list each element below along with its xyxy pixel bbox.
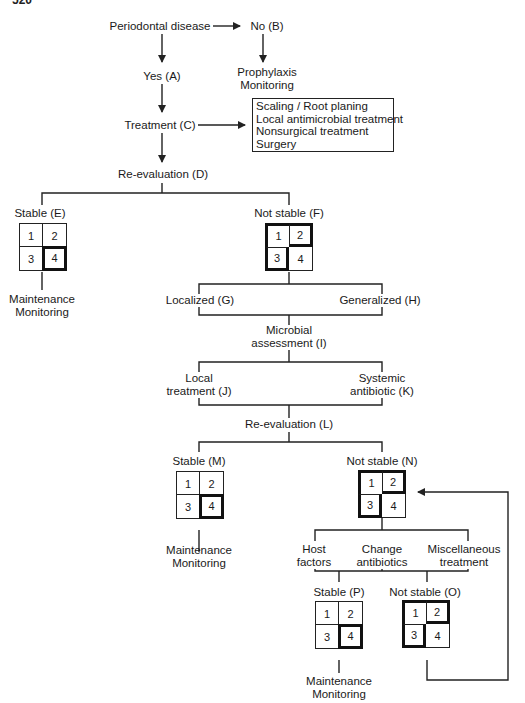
node-stable-e: Stable (E): [14, 207, 65, 220]
quadrant-grid-stable-e: 1 2 3 4: [19, 223, 67, 271]
node-stable-p: Stable (P): [313, 586, 364, 599]
treatment-options-box: Scaling / Root planing Local antimicrobi…: [252, 98, 394, 152]
node-prophylaxis: Prophylaxis Monitoring: [237, 66, 296, 92]
node-yes-a: Yes (A): [143, 70, 180, 83]
node-generalized-h: Generalized (H): [337, 294, 422, 307]
node-maintenance-m: Maintenance Monitoring: [166, 544, 232, 570]
quadrant-grid-not-stable-n: 1 2 3 4: [358, 470, 406, 518]
node-treatment-c: Treatment (C): [124, 119, 195, 132]
quadrant-grid-stable-p: 1 2 3 4: [315, 601, 363, 649]
node-local-treatment-j: Local treatment (J): [166, 372, 231, 398]
node-systemic-antibiotic-k: Systemic antibiotic (K): [350, 372, 414, 398]
node-no-b: No (B): [250, 20, 283, 33]
node-not-stable-n: Not stable (N): [347, 455, 418, 468]
node-stable-m: Stable (M): [172, 455, 225, 468]
quadrant-grid-stable-m: 1 2 3 4: [176, 471, 224, 519]
node-periodontal-disease: Periodontal disease: [109, 20, 210, 33]
node-reevaluation-d: Re-evaluation (D): [118, 168, 208, 181]
node-localized-g: Localized (G): [164, 294, 236, 307]
node-reevaluation-l: Re-evaluation (L): [245, 418, 333, 431]
node-microbial-assessment-i: Microbial assessment (I): [251, 324, 326, 350]
node-change-antibiotics: Change antibiotics: [356, 543, 407, 569]
node-maintenance-p: Maintenance Monitoring: [306, 675, 372, 701]
quadrant-grid-not-stable-f: 1 2 3 4: [265, 223, 313, 271]
quadrant-grid-not-stable-o: 1 2 3 4: [402, 600, 450, 648]
node-not-stable-f: Not stable (F): [254, 207, 324, 220]
node-host-factors: Host factors: [297, 543, 332, 569]
node-maintenance-e: Maintenance Monitoring: [9, 293, 75, 319]
node-misc-treatment: Miscellaneous treatment: [428, 543, 501, 569]
node-not-stable-o: Not stable (O): [389, 586, 461, 599]
